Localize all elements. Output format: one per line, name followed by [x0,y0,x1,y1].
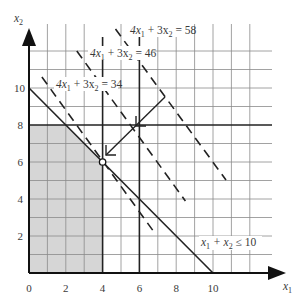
x-axis-arrowhead-icon [268,266,286,280]
optimum-point-marker [99,159,105,165]
x-tick: 10 [208,282,220,294]
y-tick: 6 [18,156,24,168]
y-axis-arrowhead-icon [22,28,36,46]
y-tick: 4 [18,193,24,205]
x-tick: 8 [173,282,179,294]
y-tick: 10 [14,82,26,94]
x-tick: 0 [26,282,32,294]
lp-graph-figure: 0 2 4 6 8 10 2 4 6 8 10 x1 x2 4x1 + 3x2 … [0,0,304,307]
y-tick: 8 [18,119,24,131]
x-axis-label: x1 [282,280,292,295]
x-tick: 4 [100,282,106,294]
x-tick: 6 [137,282,143,294]
y-axis-label: x2 [13,12,23,27]
y-tick: 2 [18,230,24,242]
lp-graph-svg: 0 2 4 6 8 10 2 4 6 8 10 x1 x2 4x1 + 3x2 … [0,0,304,307]
y-tick-labels: 2 4 6 8 10 [14,82,26,242]
x-tick: 2 [63,282,69,294]
improvement-direction-arrow [106,97,165,155]
x-tick-labels: 0 2 4 6 8 10 [26,282,219,294]
